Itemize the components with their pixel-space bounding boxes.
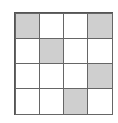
grid-cell — [39, 13, 64, 39]
grid-cell — [87, 38, 112, 64]
grid-cell — [39, 88, 64, 114]
grid-cell — [63, 63, 88, 89]
grid-cell-shaded — [39, 38, 64, 64]
grid-cell — [63, 13, 88, 39]
grid-cell — [15, 38, 40, 64]
grid-cell-shaded — [15, 13, 40, 39]
shaded-grid — [14, 12, 113, 115]
grid-cell — [15, 63, 40, 89]
grid-cell — [39, 63, 64, 89]
grid-cell-shaded — [63, 88, 88, 114]
grid-cell — [87, 88, 112, 114]
grid-cell-shaded — [87, 13, 112, 39]
grid-cell-shaded — [87, 63, 112, 89]
grid-cell — [15, 88, 40, 114]
grid-cell — [63, 38, 88, 64]
